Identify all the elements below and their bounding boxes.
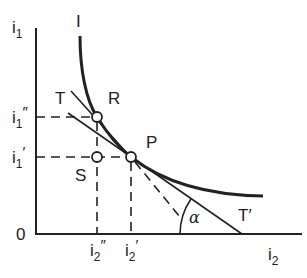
point-label-S: S: [75, 166, 86, 185]
point-P: [126, 152, 136, 162]
line-label-T-prime: T′: [238, 206, 252, 225]
dashed-secant-extension: [135, 162, 180, 217]
y-axis-label: i1: [12, 18, 23, 41]
diagram-canvas: i1 i2 0 I i1″ i1′ i2″ i2′ R P S T T′ α: [0, 0, 307, 278]
tangent-line-TT: [68, 113, 242, 234]
point-label-P: P: [146, 133, 157, 152]
origin-label: 0: [16, 225, 25, 244]
curve-label: I: [76, 12, 81, 31]
tick-label-i1-double-prime: i1″: [12, 103, 28, 131]
labels: i1 i2 0 I i1″ i1′ i2″ i2′ R P S T T′ α: [12, 12, 279, 268]
point-label-R: R: [108, 89, 120, 108]
point-R: [92, 112, 102, 122]
x-axis-label: i2: [268, 245, 279, 268]
line-label-T: T: [55, 89, 65, 108]
tick-label-i1-prime: i1′: [12, 143, 25, 171]
tick-label-i2-prime: i2′: [125, 236, 138, 264]
point-S: [92, 152, 102, 162]
indifference-curve: [80, 36, 263, 196]
tick-label-i2-double-prime: i2″: [90, 236, 106, 264]
secant-line-RP: [71, 91, 135, 162]
angle-label-alpha: α: [189, 208, 200, 227]
